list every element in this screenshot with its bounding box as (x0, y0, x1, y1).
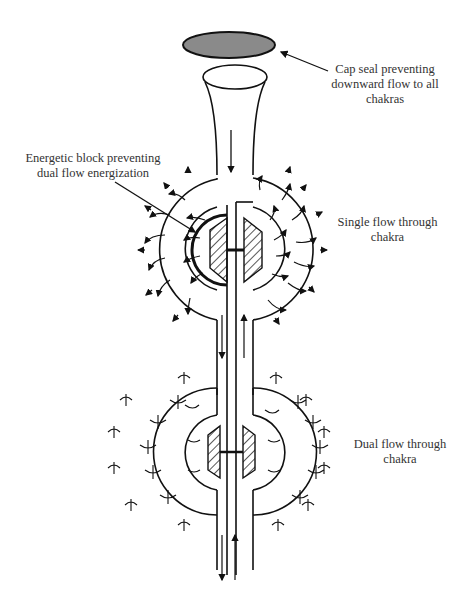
single-flow-label-line-2: chakra (330, 230, 445, 245)
single-flow-label: Single flow through chakra (330, 215, 445, 245)
dual-flow-label: Dual flow through chakra (345, 437, 455, 467)
cap-seal-label-line-2: downward flow to all (320, 77, 450, 92)
dual-flow-label-line-2: chakra (345, 452, 455, 467)
block-pointer (115, 182, 195, 232)
single-flow-label-line-1: Single flow through (330, 215, 445, 230)
energetic-block-label: Energetic block preventing dual flow ene… (18, 151, 168, 181)
cap-seal-label-line-3: chakras (320, 92, 450, 107)
funnel-top (203, 65, 267, 175)
lower-chakra (108, 372, 330, 580)
energetic-block-label-line-2: dual flow energization (18, 166, 168, 181)
upper-chakra (138, 167, 327, 340)
energetic-block-label-line-1: Energetic block preventing (18, 151, 168, 166)
cap-seal-label: Cap seal preventing downward flow to all… (320, 62, 450, 107)
cap-seal-label-line-1: Cap seal preventing (320, 62, 450, 77)
cap-seal (183, 32, 275, 58)
dual-flow-label-line-1: Dual flow through (345, 437, 455, 452)
